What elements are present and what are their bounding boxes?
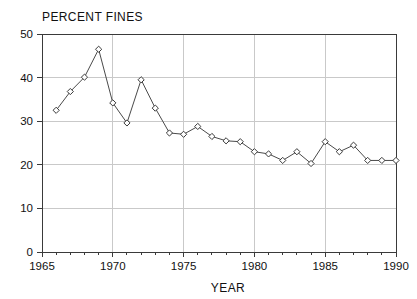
chart-figure: 01020304050196519701975198019851990 PERC…: [0, 0, 417, 299]
y-tick-label: 10: [20, 202, 33, 214]
x-tick-label: 1975: [171, 260, 197, 272]
y-tick-label: 50: [20, 28, 33, 40]
x-tick-label: 1970: [100, 260, 126, 272]
x-tick-label: 1980: [242, 260, 268, 272]
y-tick-label: 0: [27, 246, 33, 258]
chart-background: [0, 0, 417, 299]
y-tick-label: 30: [20, 115, 33, 127]
x-tick-label: 1985: [312, 260, 338, 272]
y-tick-label: 20: [20, 159, 33, 171]
chart-title: PERCENT FINES: [42, 10, 143, 24]
percent-fines-line-chart: 01020304050196519701975198019851990 PERC…: [0, 0, 417, 299]
x-axis-title: YEAR: [211, 281, 245, 295]
x-tick-label: 1990: [383, 260, 409, 272]
x-tick-label: 1965: [29, 260, 55, 272]
y-tick-label: 40: [20, 72, 33, 84]
